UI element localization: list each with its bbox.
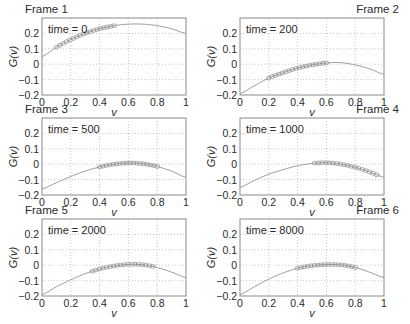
frame-label: Frame 5 (25, 204, 68, 216)
x-tick-label: 0.2 (63, 297, 78, 309)
x-tick-label: 0.4 (290, 297, 305, 309)
y-tick-label: 0.1 (222, 244, 237, 256)
x-axis-label: v (309, 307, 316, 319)
y-tick-label: 0.1 (24, 244, 39, 256)
frames-figure: Frame 1time = 00.20.10−0.1−0.200.20.40.6… (0, 0, 410, 324)
x-tick-label: 0.6 (121, 96, 136, 108)
x-axis-label: v (309, 206, 316, 218)
x-tick-label: 1 (183, 196, 189, 208)
frame-label: Frame 3 (25, 103, 68, 115)
x-axis-label: v (111, 307, 118, 319)
x-tick-label: 0.4 (290, 96, 305, 108)
y-tick-label: −0.2 (18, 89, 39, 101)
time-annotation: time = 500 (48, 123, 100, 135)
panel-frame-4: Frame 4time = 10000.20.10−0.1−0.200.20.4… (205, 103, 400, 218)
x-axis-label: v (111, 206, 118, 218)
x-tick-label: 1 (381, 297, 387, 309)
y-tick-label: 0.1 (24, 143, 39, 155)
y-axis-label: G(v) (205, 246, 217, 268)
y-tick-label: 0 (33, 58, 39, 70)
y-tick-label: 0.2 (222, 228, 237, 240)
time-annotation: time = 200 (246, 23, 298, 35)
y-tick-label: −0.2 (216, 189, 237, 201)
y-tick-label: 0.2 (24, 228, 39, 240)
panel-frame-1: Frame 1time = 00.20.10−0.1−0.200.20.40.6… (7, 3, 189, 118)
x-tick-label: 0.6 (319, 96, 334, 108)
g-curve (42, 264, 186, 294)
y-tick-label: −0.1 (216, 275, 237, 287)
time-annotation: time = 2000 (48, 224, 106, 236)
x-axis-label: v (309, 106, 316, 118)
y-tick-label: −0.1 (18, 74, 39, 86)
y-axis-label: G(v) (7, 246, 19, 268)
g-curve (240, 63, 384, 94)
x-tick-label: 0.8 (348, 297, 363, 309)
frame-label: Frame 2 (356, 3, 399, 15)
x-tick-label: 0.6 (121, 196, 136, 208)
y-tick-label: 0 (231, 158, 237, 170)
y-tick-label: 0.1 (24, 43, 39, 55)
x-tick-label: 0.2 (261, 96, 276, 108)
x-tick-label: 0.4 (92, 196, 107, 208)
panel-frame-6: Frame 6time = 80000.20.10−0.1−0.200.20.4… (205, 204, 399, 319)
panel-frame-3: Frame 3time = 5000.20.10−0.1−0.200.20.40… (7, 103, 189, 218)
time-annotation: time = 1000 (246, 123, 304, 135)
x-tick-label: 1 (183, 297, 189, 309)
x-tick-label: 0 (237, 96, 243, 108)
y-tick-label: 0.2 (222, 27, 237, 39)
x-tick-label: 0 (237, 196, 243, 208)
x-tick-label: 1 (183, 96, 189, 108)
y-tick-label: −0.2 (18, 189, 39, 201)
frame-label: Frame 1 (25, 3, 68, 15)
y-tick-label: 0 (33, 158, 39, 170)
y-tick-label: 0.1 (222, 143, 237, 155)
y-tick-label: 0 (231, 58, 237, 70)
x-tick-label: 0.6 (121, 297, 136, 309)
y-tick-label: 0 (33, 259, 39, 271)
time-annotation: time = 0 (48, 23, 87, 35)
frame-label: Frame 6 (356, 204, 399, 216)
y-tick-label: 0.1 (222, 43, 237, 55)
frame-label: Frame 4 (356, 103, 399, 115)
y-tick-label: −0.1 (216, 74, 237, 86)
g-curve (42, 163, 186, 189)
y-tick-label: 0.2 (24, 127, 39, 139)
y-tick-label: 0.2 (24, 27, 39, 39)
x-tick-label: 0 (39, 297, 45, 309)
y-axis-label: G(v) (7, 45, 19, 67)
y-tick-label: −0.2 (216, 89, 237, 101)
x-tick-label: 0.6 (319, 297, 334, 309)
y-tick-label: −0.2 (18, 290, 39, 302)
x-tick-label: 0 (237, 297, 243, 309)
x-axis-label: v (111, 106, 118, 118)
x-tick-label: 0.2 (261, 196, 276, 208)
y-tick-label: −0.1 (18, 275, 39, 287)
x-tick-label: 0.6 (319, 196, 334, 208)
y-tick-label: −0.1 (18, 174, 39, 186)
g-curve (240, 265, 384, 295)
x-tick-label: 0.2 (261, 297, 276, 309)
y-tick-label: 0 (231, 259, 237, 271)
x-tick-label: 0.8 (150, 196, 165, 208)
x-tick-label: 0.4 (290, 196, 305, 208)
panel-frame-5: Frame 5time = 20000.20.10−0.1−0.200.20.4… (7, 204, 189, 319)
y-tick-label: −0.2 (216, 290, 237, 302)
y-tick-label: 0.2 (222, 127, 237, 139)
y-axis-label: G(v) (205, 145, 217, 167)
x-tick-label: 0.8 (150, 297, 165, 309)
x-tick-label: 0.4 (92, 96, 107, 108)
time-annotation: time = 8000 (246, 224, 304, 236)
x-tick-label: 0.8 (150, 96, 165, 108)
g-curve (240, 163, 384, 188)
y-axis-label: G(v) (7, 145, 19, 167)
y-tick-label: −0.1 (216, 174, 237, 186)
x-tick-label: 0.4 (92, 297, 107, 309)
y-axis-label: G(v) (205, 45, 217, 67)
panel-frame-2: Frame 2time = 2000.20.10−0.1−0.200.20.40… (205, 3, 399, 118)
